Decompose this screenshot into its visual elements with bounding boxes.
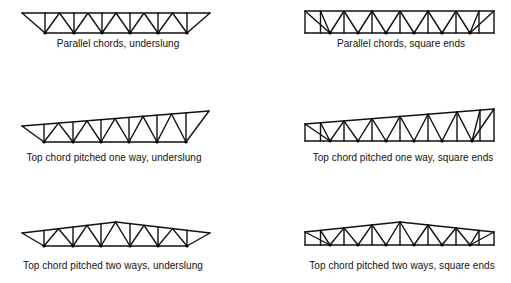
label-one-way-square: Top chord pitched one way, square ends <box>313 152 494 163</box>
label-parallel-underslung: Parallel chords, underslung <box>57 38 180 49</box>
truss-one-way-square <box>305 109 494 143</box>
label-parallel-square: Parallel chords, square ends <box>337 38 465 49</box>
truss-parallel-underslung <box>22 13 210 35</box>
truss-one-way-underslung <box>22 111 209 144</box>
truss-parallel-square <box>305 11 494 35</box>
truss-two-way-square <box>305 222 494 247</box>
label-one-way-underslung: Top chord pitched one way, underslung <box>26 152 201 163</box>
label-two-way-underslung: Top chord pitched two ways, underslung <box>23 260 203 271</box>
label-two-way-square: Top chord pitched two ways, square ends <box>309 260 494 271</box>
truss-two-way-underslung <box>22 222 210 248</box>
